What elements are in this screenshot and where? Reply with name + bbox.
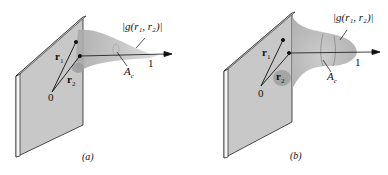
- panel-a-plate: [16, 16, 86, 157]
- panel-a-r2-label: r2: [67, 74, 75, 88]
- panel-b-origin-label: 0: [258, 88, 264, 99]
- coherence-diagram: [0, 0, 388, 175]
- panel-b-r1-label: r1: [262, 47, 270, 61]
- panel-a-function-label: |g(r₁, r₂)|: [122, 21, 163, 32]
- panel-a-area-label: Ac: [124, 66, 134, 80]
- panel-a-r1-label: r1: [55, 51, 63, 65]
- panel-b-caption: (b): [290, 151, 302, 161]
- panel-b-function-label: |g(r₁, r₂)|: [333, 12, 374, 23]
- panel-b-area-label: Ac: [327, 71, 337, 85]
- panel-a-origin-label: 0: [48, 92, 54, 103]
- panel-a-caption: (a): [82, 152, 94, 162]
- panel-a-coherence-surface: [72, 30, 158, 73]
- panel-b-r2-label: r2: [276, 71, 284, 85]
- panel-b-axis-end-label: 1: [355, 57, 361, 68]
- panel-a-axis-end-label: 1: [148, 58, 154, 69]
- panel-a-label-pointer: [136, 38, 145, 48]
